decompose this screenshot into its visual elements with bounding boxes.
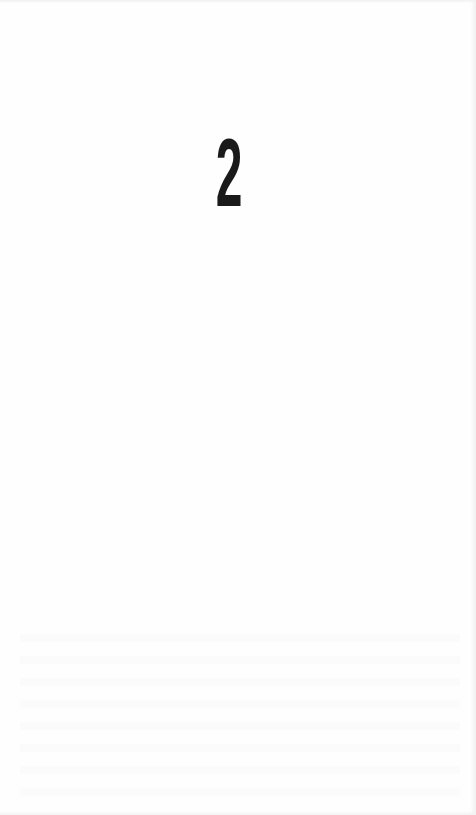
page-right-edge (470, 0, 476, 815)
page-top-edge (0, 0, 476, 3)
chapter-number: 2 (222, 128, 236, 218)
page-bottom-edge (0, 811, 476, 815)
scan-bleed-through (20, 620, 460, 800)
book-page: 2 (0, 0, 476, 815)
